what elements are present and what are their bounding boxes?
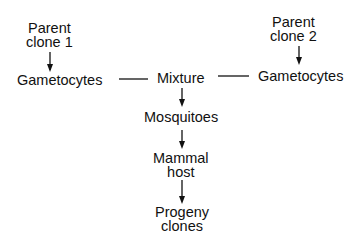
node-progeny-clones: Progeny clones xyxy=(155,205,209,233)
mammal-line1: Mammal xyxy=(153,151,209,165)
mammal-line2: host xyxy=(153,165,209,179)
parent1-line1: Parent xyxy=(26,21,73,35)
parent1-line2: clone 1 xyxy=(26,35,73,49)
node-gametocytes-2: Gametocytes xyxy=(258,69,343,83)
node-parent-clone-2: Parent clone 2 xyxy=(270,15,317,43)
progeny-line1: Progeny xyxy=(155,205,209,219)
parent2-line2: clone 2 xyxy=(270,29,317,43)
node-mixture: Mixture xyxy=(157,71,205,85)
parent2-line1: Parent xyxy=(270,15,317,29)
node-parent-clone-1: Parent clone 1 xyxy=(26,21,73,49)
node-mosquitoes: Mosquitoes xyxy=(144,110,218,124)
progeny-line2: clones xyxy=(155,219,209,233)
node-mammal-host: Mammal host xyxy=(153,151,209,179)
node-gametocytes-1: Gametocytes xyxy=(17,73,102,87)
